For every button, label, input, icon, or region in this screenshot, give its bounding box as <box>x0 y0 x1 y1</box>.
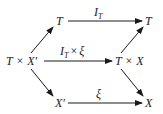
arrow-diag-right-down <box>121 69 143 96</box>
node-middle-right: T × X <box>115 54 144 68</box>
label-bottom: ξ <box>96 87 102 101</box>
node-top-left: T <box>56 14 64 28</box>
arrow-diag-left-up <box>31 27 53 53</box>
label-middle: IT×ξ <box>59 44 85 60</box>
commutative-diagram: T T T × X′ T × X X′ X IT IT×ξ ξ <box>0 0 163 114</box>
label-top: IT <box>93 5 103 21</box>
arrow-diag-right-up <box>121 27 143 53</box>
arrow-diag-left-down <box>31 69 53 96</box>
node-top-right: T <box>145 14 153 28</box>
node-middle-left: T × X′ <box>6 54 38 68</box>
node-bottom-right: X <box>144 96 153 110</box>
node-bottom-left: X′ <box>54 96 65 110</box>
